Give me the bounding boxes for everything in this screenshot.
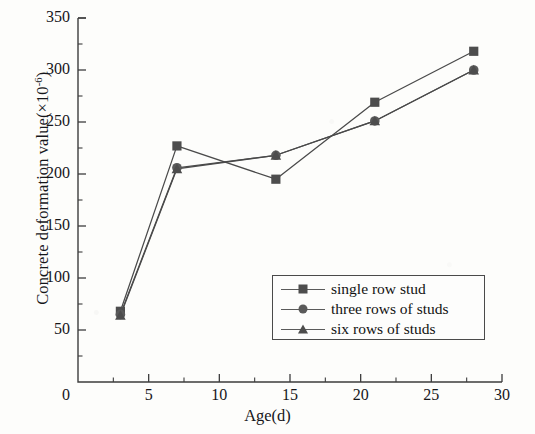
x-tick-label: 10 [199, 386, 239, 404]
legend-item: six rows of studs [273, 319, 484, 339]
y-tick-label: 150 [26, 216, 70, 234]
y-tick-label: 250 [26, 112, 70, 130]
legend-marker-triangle-icon [279, 321, 327, 337]
chart-figure: Concrete deformation value(×10-6) Age(d)… [0, 0, 535, 434]
chart-legend: single row stud three rows of studs six … [272, 275, 485, 340]
y-tick-label: 200 [26, 164, 70, 182]
x-tick-label: 20 [341, 386, 381, 404]
legend-item: single row stud [273, 279, 484, 299]
y-tick-label: 350 [26, 8, 70, 26]
y-tick-label: 50 [26, 320, 70, 338]
x-tick-label: 15 [270, 386, 310, 404]
plot-area [0, 0, 535, 434]
y-tick-label: 100 [26, 268, 70, 286]
y-tick-label: 0 [26, 386, 70, 404]
legend-item-label: six rows of studs [327, 320, 436, 338]
legend-marker-circle-icon [279, 301, 327, 317]
legend-marker-square-icon [279, 281, 327, 297]
legend-item-label: single row stud [327, 280, 426, 298]
x-axis-title: Age(d) [0, 406, 535, 426]
x-tick-label: 25 [411, 386, 451, 404]
legend-item-label: three rows of studs [327, 300, 449, 318]
x-tick-label: 30 [482, 386, 522, 404]
legend-item: three rows of studs [273, 299, 484, 319]
x-tick-label: 5 [129, 386, 169, 404]
y-tick-label: 300 [26, 60, 70, 78]
